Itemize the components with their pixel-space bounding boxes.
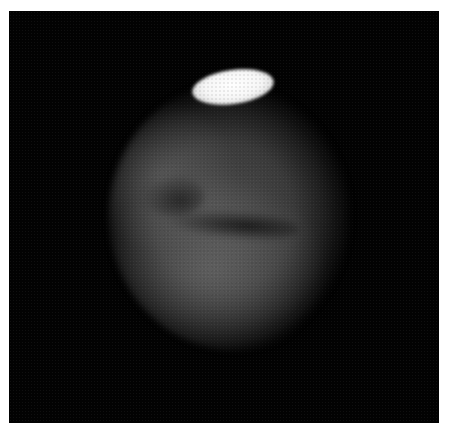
dark-surface-marking xyxy=(144,176,204,216)
image-frame xyxy=(9,11,439,423)
